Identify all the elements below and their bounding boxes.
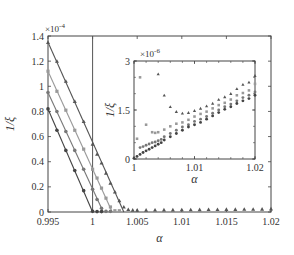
data-point <box>223 108 226 111</box>
y-tick-label: 1 <box>39 81 44 92</box>
data-point <box>217 104 220 107</box>
data-point <box>95 176 98 179</box>
data-point <box>157 131 160 134</box>
data-point <box>211 112 214 115</box>
data-point <box>235 99 238 102</box>
data-point <box>254 83 257 86</box>
data-point <box>160 138 163 141</box>
data-point <box>181 129 184 132</box>
data-point <box>64 109 67 112</box>
data-point <box>169 135 172 138</box>
data-point <box>139 76 142 79</box>
data-point <box>241 99 244 102</box>
data-point <box>133 157 136 160</box>
data-point <box>145 123 148 126</box>
data-point <box>139 146 142 149</box>
y-axis-label: 1/ξ <box>103 102 117 117</box>
x-tick-label: 1.02 <box>246 162 264 173</box>
x-tick-label: 1.015 <box>215 216 238 227</box>
data-point <box>91 188 95 192</box>
data-point <box>181 126 184 129</box>
y-tick-label: 1.2 <box>32 56 45 67</box>
data-point <box>136 137 139 140</box>
data-point <box>229 103 232 106</box>
data-point <box>199 113 202 116</box>
data-point <box>46 70 49 73</box>
data-point <box>217 111 220 114</box>
data-point <box>82 189 86 193</box>
data-point <box>148 148 151 151</box>
data-point <box>163 128 166 131</box>
y-tick-label: 0.2 <box>32 181 45 192</box>
data-point <box>223 102 226 105</box>
data-point <box>254 94 257 97</box>
x-tick-label: 1.01 <box>173 216 191 227</box>
data-point <box>73 149 77 153</box>
data-point <box>223 105 226 108</box>
data-point <box>145 149 148 152</box>
data-point <box>242 92 245 95</box>
data-point <box>160 141 163 144</box>
data-point <box>163 139 166 142</box>
data-point <box>109 205 112 208</box>
y-tick-label: 3 <box>125 56 130 67</box>
data-point <box>91 168 94 171</box>
data-point <box>187 126 190 129</box>
data-point <box>104 197 107 200</box>
data-point <box>142 151 145 154</box>
y-multiplier: ×10-4 <box>45 22 65 34</box>
y-axis-label: 1/ξ <box>3 116 17 131</box>
data-point <box>95 210 99 214</box>
data-point <box>254 91 257 94</box>
y-tick-label: 0 <box>39 207 44 218</box>
data-point <box>109 210 113 214</box>
data-point <box>136 155 139 158</box>
data-point <box>100 206 104 210</box>
y-tick-label: 0.8 <box>32 106 45 117</box>
y-tick-label: 1.5 <box>118 105 131 116</box>
data-point <box>73 169 77 173</box>
data-point <box>118 209 121 212</box>
data-point <box>229 105 232 108</box>
data-point <box>55 110 59 114</box>
data-point <box>230 98 233 101</box>
data-point <box>211 107 214 110</box>
data-point <box>151 141 154 144</box>
data-point <box>248 97 251 100</box>
data-point <box>154 144 157 147</box>
data-point <box>211 114 214 117</box>
data-point <box>217 109 220 112</box>
data-point <box>193 115 196 118</box>
data-point <box>157 139 160 142</box>
data-point <box>148 143 151 146</box>
data-point <box>145 144 148 147</box>
x-tick-label: 1 <box>90 216 95 227</box>
chart-figure: 0.99511.0051.011.0151.0200.20.40.60.811.… <box>0 0 294 255</box>
data-point <box>55 128 59 132</box>
data-point <box>82 148 85 151</box>
data-point <box>187 119 190 122</box>
data-point <box>95 198 99 202</box>
x-tick-label: 1.02 <box>262 216 280 227</box>
data-point <box>55 90 58 93</box>
data-point <box>151 131 154 134</box>
data-point <box>163 135 166 138</box>
data-point <box>235 102 238 105</box>
data-point <box>139 153 142 156</box>
data-point <box>151 146 154 149</box>
data-point <box>46 107 50 111</box>
data-point <box>199 118 202 121</box>
y-tick-label: 0.4 <box>32 156 45 167</box>
data-point <box>205 110 208 113</box>
data-point <box>181 121 184 124</box>
data-point <box>104 210 108 214</box>
x-tick-label: 1.005 <box>126 216 149 227</box>
data-point <box>175 122 178 125</box>
y-tick-label: 1.4 <box>32 31 45 42</box>
x-axis-label: α <box>156 231 163 245</box>
data-point <box>113 209 116 212</box>
data-point <box>169 132 172 135</box>
data-point <box>100 187 103 190</box>
data-point <box>248 89 251 92</box>
y-tick-label: 0.6 <box>32 131 45 142</box>
